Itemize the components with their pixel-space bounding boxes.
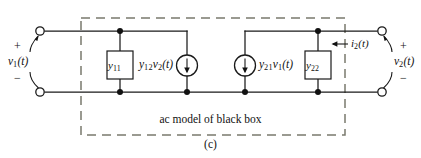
label-source-left: y12v2(t) [139, 59, 173, 72]
label-y11: y11 [108, 60, 121, 73]
terminal-output-bottom [378, 88, 386, 96]
label-source-left-arg: (t) [162, 58, 173, 70]
label-v1-plus: + [14, 40, 21, 52]
label-i2: i2(t) [351, 38, 369, 51]
label-source-right-coef-subscript: 21 [264, 63, 273, 72]
label-y22: y22 [306, 60, 319, 73]
label-source-left-coef-subscript: 12 [144, 63, 153, 72]
input-polarity-arc-lower [30, 72, 39, 88]
label-source-right: y21v1(t) [259, 59, 293, 72]
terminal-input-bottom [36, 88, 44, 96]
terminal-output-top [378, 27, 386, 35]
node-dot-source-right-bottom [242, 89, 248, 95]
label-v1-arg: (t) [17, 55, 28, 67]
label-v1-minus: − [14, 72, 21, 84]
label-v2-minus: − [400, 72, 407, 84]
figure-ac-model-black-box: y11 y22 y12v2(t) y21v1(t) v1(t) + − v2(t… [0, 0, 421, 158]
figure-label: (c) [0, 139, 421, 151]
circuit-schematic [0, 0, 421, 158]
label-i2-arg: (t) [358, 37, 368, 49]
terminal-input-top [36, 27, 44, 35]
output-polarity-arc-lower [384, 72, 393, 88]
i2-arrow-head-icon [332, 41, 338, 47]
label-v1: v1(t) [8, 56, 28, 69]
node-dot-y11-bottom [117, 89, 123, 95]
label-v2-plus: + [400, 40, 407, 52]
label-y11-subscript: 11 [113, 64, 121, 73]
label-v2-arg: (t) [403, 55, 414, 67]
node-dot-y22-bottom [315, 89, 321, 95]
label-source-right-arg: (t) [282, 58, 293, 70]
node-dot-source-left-bottom [184, 89, 190, 95]
black-box-caption: ac model of black box [0, 114, 421, 126]
label-y22-subscript: 22 [311, 64, 319, 73]
node-dot-y11-top [117, 28, 123, 34]
label-v2: v2(t) [394, 56, 414, 69]
node-dot-y22-top [315, 28, 321, 34]
